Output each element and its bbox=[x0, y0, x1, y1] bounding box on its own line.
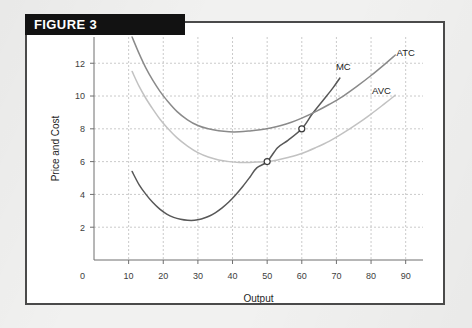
x-axis-title: Output bbox=[243, 293, 273, 303]
y-tick-label: 2 bbox=[80, 223, 85, 233]
y-tick-label: 12 bbox=[75, 59, 85, 69]
y-tick-label: 4 bbox=[80, 190, 85, 200]
x-tick-label: 30 bbox=[193, 271, 203, 281]
figure-header-bar: FIGURE 3 bbox=[25, 14, 185, 35]
y-tick-label: 6 bbox=[80, 157, 85, 167]
cost-curves-chart: 024681012 102030405060708090 MCATCAVC Ou… bbox=[27, 23, 443, 303]
x-tick-label: 20 bbox=[158, 271, 168, 281]
curve-label-atc: ATC bbox=[397, 47, 415, 58]
y-axis-ticks: 024681012 bbox=[75, 59, 94, 281]
chart-axes bbox=[94, 37, 423, 260]
y-axis-title: Price and Cost bbox=[50, 115, 61, 181]
y-tick-label-zero: 0 bbox=[80, 271, 85, 281]
x-tick-label: 60 bbox=[297, 271, 307, 281]
figure-page: 024681012 102030405060708090 MCATCAVC Ou… bbox=[0, 0, 472, 328]
figure-number-label: FIGURE 3 bbox=[34, 17, 97, 32]
curve-label-avc: AVC bbox=[372, 85, 391, 96]
mc-avc-intersection bbox=[264, 159, 270, 165]
y-tick-label: 8 bbox=[80, 124, 85, 134]
chart-gridlines bbox=[94, 37, 423, 260]
x-tick-label: 40 bbox=[228, 271, 238, 281]
y-tick-label: 10 bbox=[75, 91, 85, 101]
curve-label-mc: MC bbox=[336, 61, 351, 72]
x-tick-label: 90 bbox=[401, 271, 411, 281]
curve-avc bbox=[132, 71, 395, 162]
x-axis-ticks: 102030405060708090 bbox=[124, 260, 411, 281]
mc-atc-intersection bbox=[299, 126, 305, 132]
x-tick-label: 50 bbox=[262, 271, 272, 281]
x-tick-label: 80 bbox=[366, 271, 376, 281]
x-tick-label: 70 bbox=[331, 271, 341, 281]
curve-atc bbox=[132, 37, 395, 132]
figure-card: 024681012 102030405060708090 MCATCAVC Ou… bbox=[25, 21, 445, 305]
x-tick-label: 10 bbox=[124, 271, 134, 281]
